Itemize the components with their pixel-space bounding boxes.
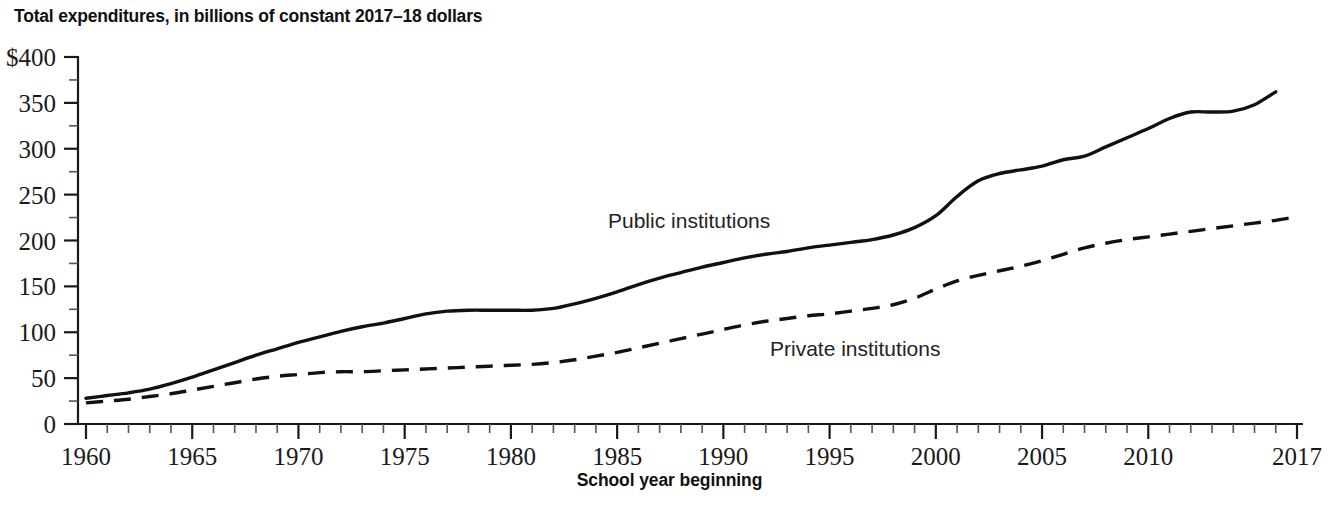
y-tick-label: 350: [19, 90, 57, 117]
x-axis-title: School year beginning: [0, 470, 1339, 491]
x-tick-label: 2005: [1017, 443, 1067, 470]
x-tick-label: 1965: [167, 443, 217, 470]
x-tick-label: 1985: [592, 443, 642, 470]
x-tick-label: 1975: [380, 443, 430, 470]
y-tick-label: $400: [6, 44, 56, 71]
series-label-private: Private institutions: [770, 337, 940, 360]
x-tick-label: 1970: [273, 443, 323, 470]
x-tick-label: 1960: [61, 443, 111, 470]
x-tick-label: 2017: [1272, 443, 1322, 470]
y-tick-label: 0: [44, 411, 57, 438]
series-inline-labels: Public institutionsPrivate institutions: [608, 209, 940, 360]
series-label-public: Public institutions: [608, 209, 770, 232]
x-tick-label: 1990: [698, 443, 748, 470]
y-tick-label: 200: [19, 228, 57, 255]
x-tick-label: 2010: [1123, 443, 1173, 470]
chart-ticks: [64, 57, 1297, 439]
y-tick-label: 100: [19, 319, 57, 346]
x-tick-label: 1995: [805, 443, 855, 470]
chart-figure: Total expenditures, in billions of const…: [0, 0, 1339, 522]
chart-series-lines: [86, 92, 1297, 403]
y-tick-label: 150: [19, 273, 57, 300]
series-line-private: [86, 217, 1297, 403]
series-line-public: [86, 92, 1276, 398]
x-tick-label: 2000: [911, 443, 961, 470]
line-chart-plot: 050100150200250300350$400 19601965197019…: [0, 0, 1339, 522]
x-tick-label: 1980: [486, 443, 536, 470]
y-tick-label: 250: [19, 182, 57, 209]
y-tick-label: 50: [31, 365, 56, 392]
x-axis-tick-labels: 1960196519701975198019851990199520002005…: [61, 443, 1322, 470]
y-axis-tick-labels: 050100150200250300350$400: [6, 44, 56, 438]
y-tick-label: 300: [19, 136, 57, 163]
